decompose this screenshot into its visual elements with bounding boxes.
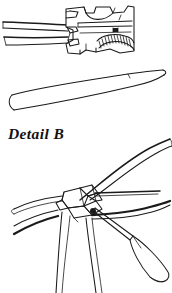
knot-core: [56, 185, 102, 222]
right-horizontal-strand: [95, 191, 160, 196]
left-strands: [11, 196, 62, 234]
right-lower-strand: [92, 201, 170, 219]
technical-illustration: [0, 0, 172, 293]
upper-rope-strand: [3, 22, 68, 31]
figure-tapered-strand: [9, 70, 166, 110]
lower-rope-strand: [4, 37, 68, 45]
clamp-pin-mark: [113, 28, 118, 32]
figure-swage-clamp-with-rope: [3, 6, 134, 54]
trailing-lower-strands: [56, 212, 102, 293]
illustration-page: Detail B: [0, 0, 172, 293]
figure-splice-knot-with-fid: [11, 139, 172, 293]
fid-handle: [130, 236, 169, 282]
